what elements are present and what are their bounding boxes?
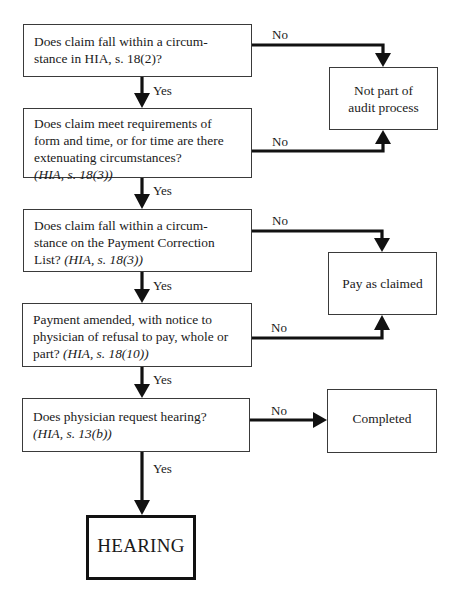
decision-box-payment-correction-list: Does claim fall within a circum- stance … <box>23 209 252 272</box>
decision-text-line: form and time, or for time are there <box>34 132 241 149</box>
decision-box-request-hearing: Does physician request hearing? (HIA, s.… <box>22 398 250 452</box>
edge-label-no: No <box>271 404 287 418</box>
edge-label-yes: Yes <box>153 462 172 476</box>
decision-text-line: Does claim fall within a circum- <box>34 33 241 50</box>
edge-label-no: No <box>272 135 288 149</box>
edge-label-yes: Yes <box>153 373 172 387</box>
decision-text-line: stance on the Payment Correction <box>34 234 241 251</box>
edge-label-yes: Yes <box>153 184 172 198</box>
outcome-text: Pay as claimed <box>342 275 422 292</box>
decision-text-line: Payment amended, with notice to <box>33 311 241 328</box>
decision-text-line: Does claim meet requirements of <box>34 115 241 132</box>
outcome-text: Completed <box>353 410 412 427</box>
statute-reference: (HIA, s. 13(b)) <box>33 425 239 442</box>
outcome-completed: Completed <box>327 389 437 453</box>
outcome-text-line: Not part of <box>348 82 418 99</box>
edge-label-no: No <box>272 28 288 42</box>
decision-text-line: Does claim fall within a circum- <box>34 217 241 234</box>
statute-reference: (HIA, s. 18(3)) <box>34 166 241 183</box>
decision-text-line: physician of refusal to pay, whole or <box>33 328 241 345</box>
no-arrow-1 <box>252 45 383 54</box>
decision-text-line: stance in HIA, s. 18(2)? <box>34 50 241 67</box>
edge-label-no: No <box>271 321 287 335</box>
edge-label-no: No <box>272 214 288 228</box>
decision-text-line: part? <box>33 346 63 361</box>
statute-reference: (HIA, s. 18(10)) <box>63 346 149 361</box>
outcome-text-line: audit process <box>348 99 418 116</box>
decision-text-line: extenuating circumstances? <box>34 149 241 166</box>
decision-box-hia-18-2: Does claim fall within a circum- stance … <box>23 24 252 77</box>
decision-box-form-and-time: Does claim meet requirements of form and… <box>23 108 252 178</box>
decision-box-payment-amended: Payment amended, with notice to physicia… <box>22 303 252 367</box>
outcome-pay-as-claimed: Pay as claimed <box>328 252 437 315</box>
edge-label-yes: Yes <box>153 279 172 293</box>
no-arrow-3 <box>252 231 382 239</box>
outcome-hearing: HEARING <box>86 515 196 580</box>
decision-text-line: Does physician request hearing? <box>33 408 239 425</box>
outcome-text: HEARING <box>97 537 185 554</box>
edge-label-yes: Yes <box>153 84 172 98</box>
statute-reference: (HIA, s. 18(3)) <box>64 252 143 267</box>
decision-text-line: List? <box>34 252 64 267</box>
outcome-not-part-of-audit: Not part of audit process <box>329 67 438 130</box>
